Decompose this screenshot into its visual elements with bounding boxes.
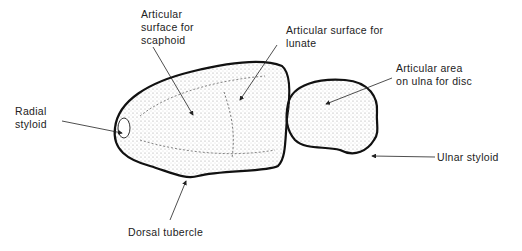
label-dorsal-tubercle: Dorsal tubercle [128, 226, 203, 239]
label-scaphoid-surface: Articular surface for scaphoid [141, 8, 194, 47]
label-ulnar-styloid: Ulnar styloid [437, 151, 499, 164]
ulna-outline [286, 80, 377, 154]
bone-diagram [0, 0, 522, 251]
label-radial-styloid: Radial styloid [15, 105, 47, 131]
label-lunate-surface: Articular surface for lunate [286, 24, 383, 50]
label-ulna-disc-area: Articular area on ulna for disc [396, 62, 472, 88]
radius-outline [115, 62, 290, 177]
